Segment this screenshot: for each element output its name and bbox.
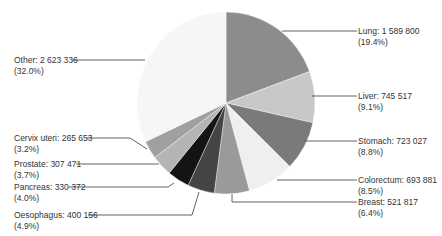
label-other: Other: 2 623 336	[14, 55, 78, 65]
pie-chart: Lung: 1 589 800 (19.4%) Liver: 745 517 (…	[0, 0, 442, 236]
label-colorectum-pct: (8.5%)	[358, 186, 383, 196]
leader-line-oesophagus	[88, 192, 199, 215]
label-breast: Breast: 521 817	[358, 197, 418, 207]
pie-slices	[137, 12, 315, 194]
label-lung: Lung: 1 589 800	[358, 26, 420, 36]
label-liver: Liver: 745 517	[358, 91, 412, 101]
label-breast-pct: (6.4%)	[358, 208, 383, 218]
leader-line-cervix	[86, 138, 147, 149]
label-oesophagus-pct: (4.9%)	[14, 221, 39, 231]
label-liver-pct: (9.1%)	[358, 102, 383, 112]
label-lung-pct: (19.4%)	[358, 37, 388, 47]
label-oesophagus: Oesophagus: 400 156	[14, 210, 98, 220]
label-pancreas-pct: (4.0%)	[14, 193, 39, 203]
label-cervix: Cervix uteri: 265 653	[14, 133, 93, 143]
label-cervix-pct: (3.2%)	[14, 144, 39, 154]
leader-line-breast	[232, 194, 357, 202]
label-prostate: Prostate: 307 471	[14, 159, 81, 169]
label-colorectum: Colorectum: 693 881	[358, 175, 437, 185]
label-other-pct: (32.0%)	[14, 66, 44, 76]
label-stomach: Stomach: 723 027	[358, 136, 427, 146]
label-prostate-pct: (3.7%)	[14, 170, 39, 180]
label-stomach-pct: (8.8%)	[358, 147, 383, 157]
label-pancreas: Pancreas: 330 372	[14, 182, 86, 192]
